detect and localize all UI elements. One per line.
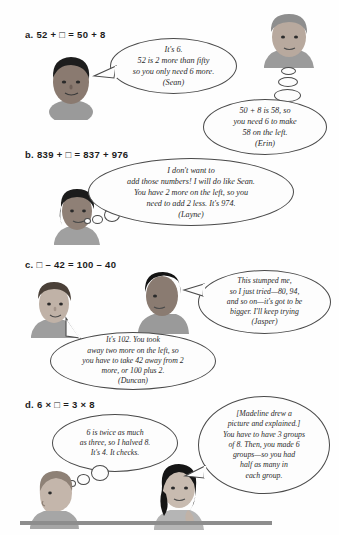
face-erin — [258, 10, 318, 72]
speech-tail-duncan — [62, 316, 84, 340]
equation-a: a. 52 + □ = 50 + 8 — [25, 29, 106, 40]
face-sean — [42, 48, 100, 120]
speech-bubble-duncan: It's 102. You took away two more on the … — [50, 332, 216, 390]
thought-bubble-layne: I don't want to add those numbers! I wil… — [88, 158, 294, 226]
speech-tail-madeline — [183, 462, 207, 482]
speech-bubble-jasper: This stumped me, so I just tried—80, 94,… — [198, 270, 331, 334]
equation-b: b. 839 + □ = 837 + 976 — [25, 149, 128, 160]
thought-trail-boy-3 — [91, 465, 109, 481]
speech-tail-jasper — [182, 282, 206, 300]
thought-bubble-boy-text: 6 is twice as much as three, so I halved… — [71, 428, 160, 459]
thought-trail-layne-1 — [84, 218, 91, 224]
thought-trail-erin-2 — [278, 77, 298, 87]
thought-bubble-erin: 50 + 8 is 58, so you need 6 to make 58 o… — [203, 99, 327, 155]
speech-bubble-jasper-text: This stumped me, so I just tried—80, 94,… — [218, 276, 312, 327]
speech-bubble-sean: It's 6. 52 is 2 more than fifty so you o… — [110, 38, 237, 94]
thought-trail-layne-2 — [92, 215, 103, 224]
thought-trail-erin-1 — [281, 67, 296, 75]
equation-d: d. 6 × □ = 3 × 8 — [25, 399, 95, 410]
face-jasper — [132, 268, 190, 336]
bottom-divider — [20, 521, 272, 525]
speech-bubble-duncan-text: It's 102. You took away two more on the … — [73, 335, 192, 386]
speech-bubble-madeline-text: [Madeline drew a picture and explained.]… — [214, 409, 314, 480]
speech-bubble-sean-text: It's 6. 52 is 2 more than fifty so you o… — [124, 44, 224, 88]
equation-c: c. □ – 42 = 100 – 40 — [25, 259, 116, 270]
thought-bubble-layne-text: I don't want to add those numbers! I wil… — [118, 165, 264, 220]
speech-bubble-madeline: [Madeline drew a picture and explained.]… — [198, 396, 330, 494]
worksheet-page: a. 52 + □ = 50 + 8 It's 6. 52 is 2 more … — [0, 0, 339, 535]
thought-bubble-erin-text: 50 + 8 is 58, so you need 6 to make 58 o… — [224, 105, 305, 149]
speech-tail-sean — [92, 64, 118, 82]
